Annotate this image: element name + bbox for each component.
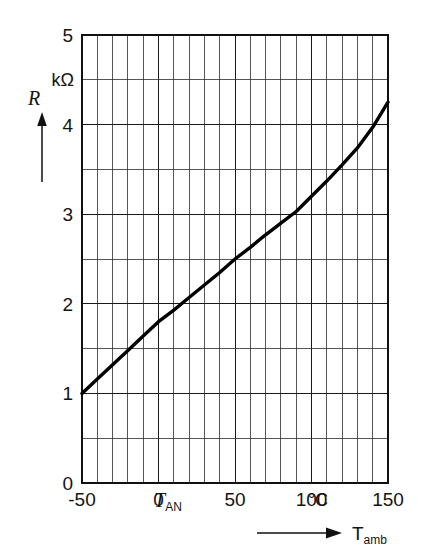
x-tick-label: 50: [224, 489, 245, 510]
t-an-subscript: AN: [165, 500, 182, 514]
x-axis-symbol: T: [352, 523, 364, 544]
y-tick-label: 2: [62, 294, 73, 315]
y-tick-label: 3: [62, 204, 73, 225]
x-tick-label: 150: [372, 489, 404, 510]
chart-figure: 012345 -50050100150 kΩ R TAN °C Tamb: [0, 0, 424, 559]
y-axis-unit-label: kΩ: [52, 70, 74, 90]
resistance-temperature-chart: 012345 -50050100150 kΩ R TAN °C Tamb: [0, 0, 424, 559]
y-tick-label: 4: [62, 115, 73, 136]
x-tick-label: -50: [68, 489, 95, 510]
x-axis-subscript: amb: [364, 533, 388, 547]
y-tick-label: 5: [62, 25, 73, 46]
x-axis-unit-label: °C: [308, 490, 328, 510]
y-axis-symbol-label: R: [27, 87, 40, 109]
y-tick-label: 1: [62, 383, 73, 404]
